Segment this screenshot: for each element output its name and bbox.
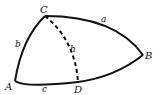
vertex-label-b: B (144, 50, 152, 61)
spherical-triangle-diagram: C A B D a b c h (0, 0, 164, 95)
side-label-h: h (70, 44, 76, 54)
side-label-c: c (42, 84, 47, 94)
vertex-label-c: C (40, 4, 48, 15)
arc-a (45, 16, 143, 55)
side-label-a: a (101, 14, 106, 24)
vertex-label-d: D (73, 84, 82, 95)
arc-c (15, 55, 143, 85)
side-label-b: b (15, 39, 21, 49)
vertex-label-a: A (4, 81, 12, 92)
